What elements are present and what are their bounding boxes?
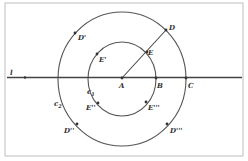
point-E1 [96,53,99,56]
point-label-D: D [168,23,176,32]
line-label: l [10,68,13,77]
segment-AD [122,30,166,78]
point-E3 [145,101,148,104]
point-label-E1: E' [98,55,106,64]
point-C [185,77,188,80]
segment-line [122,30,166,78]
point-D2 [76,123,79,126]
point-label-E3: E''' [147,103,160,112]
point-label-A: A [118,81,125,90]
point-label-D1: D' [77,33,86,42]
point-label-C: C [188,81,194,90]
line-l: l [7,68,242,79]
point-D1 [74,32,77,35]
point-D [165,29,168,32]
point-label-D2: D'' [63,126,74,135]
point-label-E2: E'' [85,103,96,112]
diagram-frame [5,3,243,156]
point-A [121,77,124,80]
point-D3 [166,123,169,126]
point-label-B: B [156,81,163,90]
line-point [24,76,26,78]
geometry-diagram: c1c2 l ABCDED'E'E''D''E'''D''' [0,0,248,161]
point-label-E: E [147,48,154,57]
point-E2 [97,102,100,105]
circle-label-c1: c1 [87,87,95,97]
point-label-D3: D''' [169,126,183,135]
point-B [155,77,158,80]
